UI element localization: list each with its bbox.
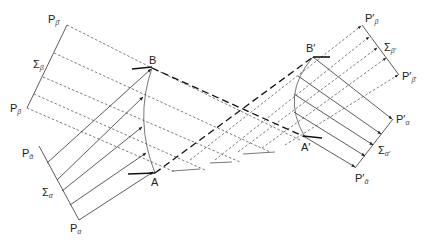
sigma-alpha-line: [39, 146, 79, 220]
left-system: [27, 25, 300, 220]
beta-prime-dashed-rays: [190, 26, 398, 160]
sigma-alpha-prime-line: [355, 119, 393, 168]
label-sigma-beta: Σβ: [33, 58, 44, 72]
tick-b: [132, 67, 152, 69]
label-point-b: B: [149, 54, 156, 66]
label-p-prime-beta-bar: P′β̄: [402, 70, 416, 84]
right-system: [190, 25, 399, 168]
label-p-alpha-bar: Pᾱ: [22, 147, 34, 160]
label-point-a-prime: A′: [301, 141, 310, 153]
label-sigma-alpha-prime: Σα′: [378, 144, 391, 157]
label-p-beta: Pβ: [10, 102, 21, 116]
label-sigma-beta-prime: Σβ′: [384, 41, 397, 55]
beta-dashed-rays: [27, 25, 300, 172]
alpha-solid-rays: [47, 69, 153, 220]
label-p-prime-alpha: P′α: [396, 113, 410, 126]
optics-diagram: Pβ̄ Σβ Pβ Pᾱ Σα Pα B A P′β Σβ′ P′β̄ P′α …: [0, 0, 431, 242]
connector-b-to-aprime: [152, 68, 305, 137]
label-p-alpha: Pα: [70, 222, 82, 235]
label-sigma-alpha: Σα: [42, 186, 54, 199]
label-point-b-prime: B′: [306, 42, 315, 54]
label-p-prime-alpha-bar: P′ᾱ: [355, 172, 369, 185]
label-p-prime-beta: P′β: [365, 12, 378, 26]
label-point-a: A: [151, 176, 159, 188]
tick-a: [128, 173, 155, 174]
curve-ab: [144, 68, 155, 173]
labels: Pβ̄ Σβ Pβ Pᾱ Σα Pα B A P′β Σβ′ P′β̄ P′α …: [10, 12, 416, 235]
intermediate-ticks: [172, 152, 275, 171]
connector-a-to-bprime: [155, 57, 313, 173]
label-p-beta-bar: Pβ̄: [48, 13, 60, 27]
